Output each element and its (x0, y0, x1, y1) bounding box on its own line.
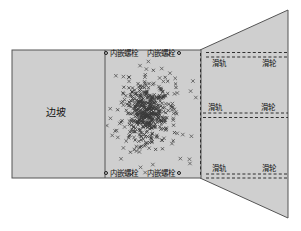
funnel-trapezoid (200, 10, 288, 218)
rail-label-2: 滑轨 (208, 104, 222, 112)
bolt-label-bottom-left: 内嵌螺栓 (110, 167, 138, 178)
circle-marker-icon (104, 171, 108, 175)
rail-label-3: 滑轨 (212, 165, 226, 173)
circle-marker-icon (177, 171, 181, 175)
bolt-row-top: 内嵌螺栓 内嵌螺栓 (104, 47, 181, 58)
slope-region-label: 边坡 (46, 108, 66, 118)
bolt-row-bottom: 内嵌螺栓 内嵌螺栓 (104, 167, 181, 178)
pulley-label-1: 滑轮 (262, 60, 276, 68)
pulley-label-2: 滑轮 (261, 104, 275, 112)
diagram-canvas: 边坡 内嵌螺栓 内嵌螺栓 内嵌螺栓 内嵌螺栓 滑轨 滑轮 滑轨 滑轮 滑轨 滑轮 (0, 0, 301, 231)
circle-marker-icon (104, 51, 108, 55)
bolt-label-top-left: 内嵌螺栓 (110, 47, 138, 58)
bolt-label-top-right: 内嵌螺栓 (147, 47, 175, 58)
rail-label-1: 滑轨 (212, 60, 226, 68)
pulley-label-3: 滑轮 (262, 165, 276, 173)
bolt-label-bottom-right: 内嵌螺栓 (147, 167, 175, 178)
circle-marker-icon (177, 51, 181, 55)
